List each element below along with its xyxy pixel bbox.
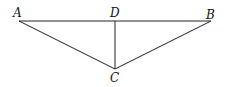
label-c: C	[110, 71, 119, 85]
segment-bc	[115, 21, 211, 69]
label-b: B	[205, 8, 215, 22]
segment-ac	[19, 21, 115, 69]
label-a: A	[12, 6, 22, 20]
label-d: D	[109, 6, 120, 20]
geometry-diagram: A D B C	[0, 0, 229, 87]
